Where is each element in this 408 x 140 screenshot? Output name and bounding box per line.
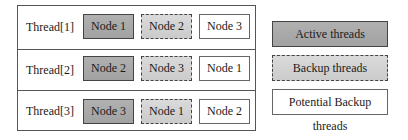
backup-node: Node 1 — [141, 99, 192, 124]
thread-row-3: Thread[3] Node 3 Node 1 Node 2 — [18, 91, 255, 131]
thread-row-2: Thread[2] Node 2 Node 3 Node 1 — [18, 50, 255, 91]
potential-backup-node: Node 3 — [199, 14, 250, 39]
thread-row-1: Thread[1] Node 1 Node 2 Node 3 — [18, 6, 255, 50]
thread-table: Thread[1] Node 1 Node 2 Node 3 Thread[2]… — [17, 5, 256, 131]
active-node: Node 3 — [83, 99, 134, 124]
backup-node: Node 3 — [141, 56, 192, 81]
legend-backup-threads: Backup threads — [272, 55, 388, 81]
legend-potential-backup-threads: Potential Backup threads — [272, 89, 388, 115]
active-node: Node 2 — [83, 56, 134, 81]
potential-backup-node: Node 2 — [199, 99, 250, 124]
thread-label: Thread[2] — [26, 63, 74, 77]
backup-node: Node 2 — [141, 14, 192, 39]
thread-label: Thread[3] — [26, 104, 74, 118]
active-node: Node 1 — [83, 14, 134, 39]
potential-backup-node: Node 1 — [199, 56, 250, 81]
thread-label: Thread[1] — [26, 20, 74, 34]
legend-active-threads: Active threads — [272, 21, 388, 47]
